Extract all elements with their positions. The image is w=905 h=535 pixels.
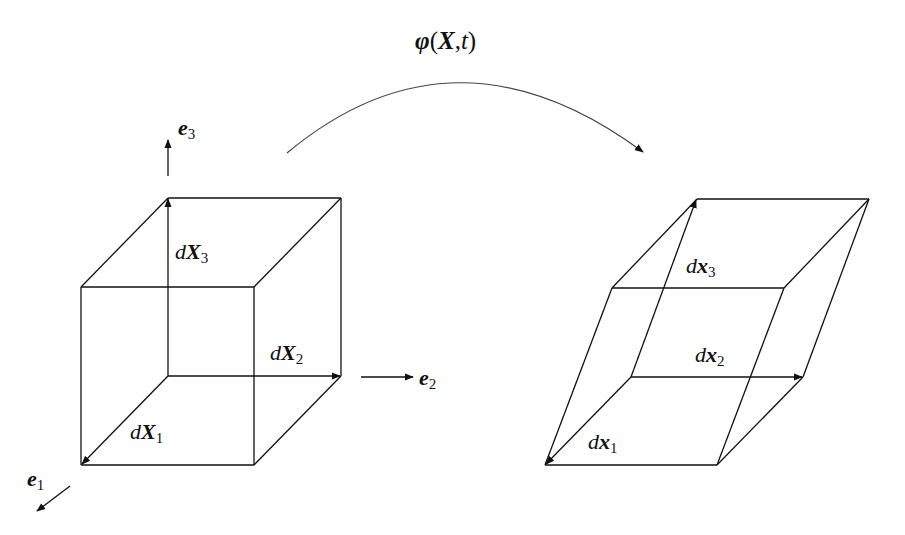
e1-sub: 1: [37, 477, 45, 493]
dx2-sub: 2: [717, 353, 725, 369]
label-e3: e3: [178, 117, 195, 142]
deformed-parallelepiped: [545, 199, 869, 465]
e2-sub: 2: [429, 376, 437, 392]
label-dX3: dX3: [175, 241, 208, 266]
cube-bottom-right-edge: [254, 376, 341, 465]
dX1-vec: X: [141, 419, 156, 444]
mapping-arrow: [287, 83, 643, 153]
para-top-right-edge: [784, 199, 869, 288]
e3-sub: 3: [188, 126, 196, 142]
mapping-open-paren: (: [430, 27, 438, 54]
dx3-d: d: [686, 253, 697, 278]
para-bottom-right-edge: [717, 377, 803, 465]
para-back-right-edge: [803, 199, 869, 377]
mapping-arg-t: t: [461, 27, 468, 54]
mapping-symbol: φ: [415, 27, 430, 54]
dx1-sub: 1: [610, 440, 618, 456]
mapping-label: φ(X,t): [415, 28, 476, 53]
dx3-vec: x: [697, 253, 708, 278]
label-dx2: dx2: [695, 344, 725, 369]
e3-base: e: [178, 115, 188, 140]
mapping-arg-X: X: [438, 27, 455, 54]
dx2-d: d: [695, 342, 706, 367]
dx1-vec: x: [599, 429, 610, 454]
label-dX1: dX1: [130, 421, 163, 446]
dX2-sub: 2: [296, 351, 304, 367]
diagram-canvas: [0, 0, 905, 535]
dx3-sub: 3: [708, 264, 716, 280]
label-e1: e1: [27, 468, 44, 493]
deformation-diagram: φ(X,t) e3 e2 e1 dX3 dX2 dX1 dx3 dx2 dx1: [0, 0, 905, 535]
dX1-sub: 1: [156, 430, 164, 446]
reference-cube: [81, 198, 341, 465]
label-dX2: dX2: [270, 342, 303, 367]
dX2-vec: X: [281, 340, 296, 365]
cube-top-left-edge: [81, 198, 168, 287]
label-dx1: dx1: [588, 431, 618, 456]
dX1-d: d: [130, 419, 141, 444]
dX3-vec: X: [186, 239, 201, 264]
mapping-close-paren: ): [468, 27, 476, 54]
label-e2: e2: [419, 367, 436, 392]
dX3-d: d: [175, 239, 186, 264]
dX2-d: d: [270, 340, 281, 365]
para-top-left-edge: [612, 199, 697, 288]
basis-vectors: [37, 140, 413, 511]
dx2-vec: x: [706, 342, 717, 367]
dx1-d: d: [588, 429, 599, 454]
e2-base: e: [419, 365, 429, 390]
label-dx3: dx3: [686, 255, 716, 280]
dX3-sub: 3: [201, 250, 209, 266]
e1-base: e: [27, 466, 37, 491]
cube-top-right-edge: [254, 198, 341, 287]
